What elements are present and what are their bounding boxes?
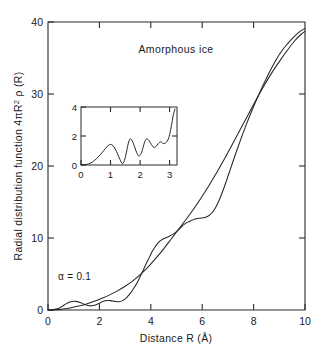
curve-smooth-reference xyxy=(48,31,305,310)
y-tick-labels: 0 10 20 30 40 xyxy=(31,16,43,316)
inset-x-tick-label-1: 1 xyxy=(108,169,113,180)
x-tick-label-2: 2 xyxy=(96,315,102,327)
radial-distribution-function-figure: 0 10 20 30 40 0 2 4 6 8 10 Distance R (Å… xyxy=(0,0,326,363)
inset-x-tick-labels: 0 1 2 3 xyxy=(78,169,172,180)
inset-frame xyxy=(81,107,177,165)
x-axis-ticks xyxy=(48,22,305,310)
curve-experimental-rdf xyxy=(48,28,305,310)
inset-y-tick-label-0: 0 xyxy=(72,160,77,171)
inset-x-tick-label-2: 2 xyxy=(137,169,142,180)
y-axis-ticks xyxy=(48,22,305,310)
x-tick-label-10: 10 xyxy=(299,315,311,327)
y-tick-label-0: 0 xyxy=(37,304,43,316)
x-tick-label-0: 0 xyxy=(45,315,51,327)
y-tick-label-40: 40 xyxy=(31,16,43,28)
x-tick-label-4: 4 xyxy=(148,315,154,327)
y-tick-label-30: 30 xyxy=(31,88,43,100)
x-tick-label-8: 8 xyxy=(251,315,257,327)
svg-text:Radial distribution function: Radial distribution function 4πR2 ρ (R) xyxy=(12,71,25,260)
x-tick-labels: 0 2 4 6 8 10 xyxy=(45,315,311,327)
plot-title: Amorphous ice xyxy=(138,43,213,55)
main-curves xyxy=(48,28,305,310)
x-axis-title: Distance R (Å) xyxy=(140,332,212,344)
main-axes-frame xyxy=(48,22,305,310)
chart-svg: 0 10 20 30 40 0 2 4 6 8 10 Distance R (Å… xyxy=(0,0,326,363)
x-tick-label-6: 6 xyxy=(199,315,205,327)
alpha-annotation: α = 0.1 xyxy=(58,271,91,282)
y-axis-title-suffix: ρ (R) xyxy=(12,71,24,99)
y-axis-title: Radial distribution function 4πR2 ρ (R) xyxy=(12,71,25,260)
inset-y-tick-label-4: 4 xyxy=(72,102,77,113)
y-axis-title-prefix: Radial distribution function 4πR xyxy=(12,104,24,260)
inset-x-tick-label-3: 3 xyxy=(167,169,172,180)
y-tick-label-20: 20 xyxy=(31,160,43,172)
inset-y-tick-label-2: 2 xyxy=(72,131,77,142)
inset-x-tick-label-0: 0 xyxy=(78,169,83,180)
inset-y-tick-labels: 0 2 4 xyxy=(72,102,77,171)
y-tick-label-10: 10 xyxy=(31,232,43,244)
inset-plot: 0 2 4 0 1 2 3 xyxy=(72,102,177,180)
